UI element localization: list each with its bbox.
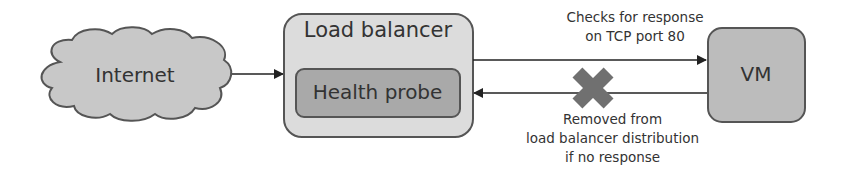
note-line: Removed from [480, 110, 745, 129]
probe-check-note: Checks for response on TCP port 80 [520, 8, 750, 46]
health-probe-label: Health probe [295, 80, 460, 104]
note-line: Checks for response [520, 8, 750, 27]
load-balancer-label: Load balancer [283, 18, 473, 42]
vm-label: VM [707, 62, 805, 86]
internet-label: Internet [40, 63, 230, 87]
note-line: on TCP port 80 [520, 27, 750, 46]
removal-note: Removed from load balancer distribution … [480, 110, 745, 167]
note-line: if no response [480, 148, 745, 167]
note-line: load balancer distribution [480, 129, 745, 148]
